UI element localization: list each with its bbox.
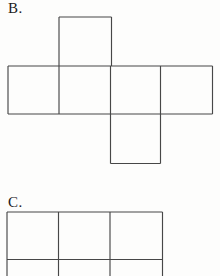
cube-net-b: [8, 17, 213, 164]
cube-nets-figure: [0, 0, 220, 276]
cube-net-c: [7, 212, 163, 276]
worksheet-page: B. C.: [0, 0, 220, 276]
